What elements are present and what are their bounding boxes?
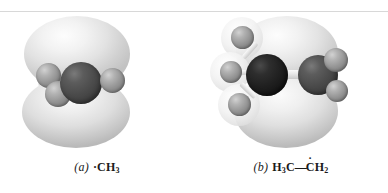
caption-formula-a: ·CH3 [93,160,120,174]
carbon-methyl-b [246,54,288,96]
carbon-center-a [60,62,102,104]
radical-dot-b: · [308,153,312,164]
caption-letter-b: (b) [254,160,269,174]
caption-formula-main-a: CH [97,160,115,174]
caption-letter-a: (a) [74,160,89,174]
hydrogen-methyl-mid-b [220,61,242,83]
molecule-stage-a [0,0,194,158]
hydrogen-methyl-top-b [231,26,254,49]
radical-orbital-figure: (a)·CH3 [0,0,388,193]
hydrogen-radical-top-b [324,48,348,72]
caption-formula-h-sub-b: 3 [282,166,286,175]
hydrogen-methyl-bottom-b [228,93,251,116]
panel-methyl-radical: (a)·CH3 [0,0,194,193]
caption-formula-h2-sub-b: 2 [324,166,328,175]
caption-b: (b)H3C—·CH2 [194,160,388,175]
caption-formula-b: H3C—·CH2 [272,160,328,174]
panel-ethyl-radical: (b)H3C—·CH2 [194,0,388,193]
caption-formula-sub-a: 3 [116,166,120,175]
hydrogen-right-a [100,68,125,93]
caption-formula-h-b: H [272,160,282,174]
molecule-stage-b [194,0,388,158]
caption-formula-c-b: C [286,160,295,174]
caption-formula-h2-b: H [315,160,325,174]
caption-bond-dash-b: — [295,160,306,174]
caption-radical-carbon-b: ·C [306,160,315,175]
hydrogen-radical-bottom-b [326,80,348,102]
caption-a: (a)·CH3 [0,160,194,175]
